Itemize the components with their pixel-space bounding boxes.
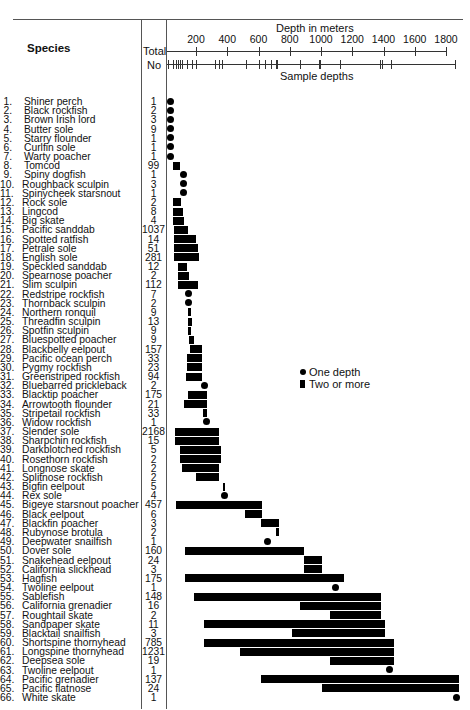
single-depth-dot: [332, 584, 339, 591]
single-depth-dot: [167, 153, 174, 160]
sample-depth-tick: [340, 60, 341, 69]
sample-depth-tick: [219, 60, 220, 69]
x-axis-title: Depth in meters: [276, 24, 354, 33]
sample-depth-tick: [382, 60, 383, 69]
sample-depth-tick: [196, 60, 197, 69]
species-number: 3.: [0, 115, 12, 124]
depth-tick: [384, 47, 385, 56]
species-total: 160: [142, 546, 165, 555]
depth-range-bar: [196, 473, 219, 481]
depth-range-bar: [174, 253, 199, 261]
depth-range-bar: [173, 198, 181, 206]
depth-range-bar: [330, 611, 382, 619]
sample-depth-tick: [182, 60, 183, 69]
single-depth-dot: [167, 134, 174, 141]
legend-one-depth-label: One depth: [309, 368, 360, 377]
depth-range-bar: [240, 648, 394, 656]
depth-range-bar: [173, 208, 182, 216]
depth-range-bar: [261, 519, 279, 527]
single-depth-dot: [180, 189, 187, 196]
sample-depth-tick: [277, 60, 278, 69]
single-depth-dot: [201, 382, 208, 389]
species-number: 9.: [0, 170, 12, 179]
depth-range-bar: [174, 235, 196, 243]
depth-tick-label: 400: [218, 33, 236, 45]
sample-depth-tick: [300, 60, 301, 69]
depth-range-bar: [175, 437, 219, 445]
depth-range-bar: [190, 345, 203, 353]
depth-tick: [259, 47, 260, 56]
depth-range-bar: [187, 354, 202, 362]
depth-tick: [415, 47, 416, 56]
depth-tick: [227, 47, 228, 56]
depth-tick: [352, 47, 353, 56]
single-depth-dot: [180, 180, 187, 187]
depth-range-bar: [194, 593, 381, 601]
species-number: 56.: [0, 601, 12, 610]
depth-tick-label: 600: [250, 33, 268, 45]
single-depth-dot: [167, 98, 174, 105]
depth-range-bar: [203, 409, 207, 417]
depth-tick-label: 1200: [341, 33, 364, 45]
single-depth-dot: [264, 538, 271, 545]
depth-range-bar: [292, 629, 385, 637]
sample-depths-label: Sample depths: [280, 72, 353, 81]
species-name: California grenadier: [22, 601, 112, 610]
depth-tick-label: 1800: [434, 33, 457, 45]
species-name: Dover sole: [22, 546, 71, 555]
depth-range-bar: [173, 217, 183, 225]
depth-range-bar: [188, 318, 192, 326]
depth-tick-label: 1600: [403, 33, 426, 45]
species-total: 1: [142, 693, 165, 702]
sample-depth-tick: [215, 60, 216, 69]
top-rule: [13, 19, 463, 20]
depth-range-bar: [178, 281, 198, 289]
single-depth-dot: [167, 116, 174, 123]
sample-depth-tick: [168, 60, 169, 69]
depth-range-bar: [204, 639, 394, 647]
legend-bar-icon: [300, 380, 305, 388]
sample-depth-tick: [187, 60, 188, 69]
single-depth-dot: [167, 125, 174, 132]
depth-range-bar: [174, 244, 198, 252]
single-depth-dot: [203, 418, 210, 425]
legend-two-or-more-label: Two or more: [309, 380, 370, 389]
species-number: 50.: [0, 546, 12, 555]
sample-depth-tick: [173, 60, 174, 69]
sample-depth-tick: [246, 60, 247, 69]
depth-range-bar: [174, 226, 188, 234]
sample-depth-axis: [167, 64, 456, 65]
sample-depth-tick: [320, 60, 321, 69]
total-column-divider: [166, 19, 167, 709]
depth-tick-label: 200: [187, 33, 205, 45]
sample-depth-tick: [192, 60, 193, 69]
depth-range-bar: [188, 391, 207, 399]
depth-range-bar: [304, 565, 322, 573]
depth-range-bar: [176, 501, 262, 509]
sample-depth-tick: [391, 60, 392, 69]
depth-range-bar: [180, 446, 221, 454]
single-depth-dot: [386, 666, 393, 673]
species-total: 1: [142, 170, 165, 179]
depth-tick: [196, 47, 197, 56]
depth-range-bar: [300, 602, 381, 610]
depth-range-bar: [261, 675, 459, 683]
species-name: Spiny dogfish: [24, 170, 86, 179]
depth-range-bar: [188, 308, 191, 316]
single-depth-dot: [185, 299, 192, 306]
depth-range-bar: [188, 327, 191, 335]
depth-range-bar: [204, 620, 385, 628]
species-total: 19: [142, 656, 165, 665]
depth-range-bar: [173, 162, 180, 170]
species-name: White skate: [22, 693, 76, 702]
depth-range-bar: [185, 547, 304, 555]
depth-tick: [290, 47, 291, 56]
depth-range-bar: [322, 684, 459, 692]
depth-range-bar: [184, 400, 207, 408]
sample-depth-tick: [265, 60, 266, 69]
depth-tick-label: 800: [281, 33, 299, 45]
sample-depth-tick: [259, 60, 260, 69]
sample-depth-tick: [222, 60, 223, 69]
total-header: Total: [143, 47, 166, 56]
depth-range-bar: [189, 336, 194, 344]
